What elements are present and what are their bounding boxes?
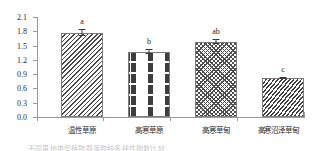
x-axis-line (37, 117, 305, 118)
y-axis-title: Pielou均匀度指数 (1, 0, 15, 14)
y-tick-6: 1.8 (33, 31, 37, 32)
y-tick-7: 2.1 (33, 17, 37, 18)
x-axis-label-gaohan-caoyuan: 高寒草原 (135, 124, 162, 135)
y-tick-label-2: 0.6 (17, 84, 27, 93)
error-bar-cap-top-1 (146, 49, 153, 50)
significance-label-2: ab (212, 27, 220, 36)
error-bar-0 (61, 29, 103, 36)
significance-label-0: a (80, 17, 84, 26)
bar-chart-figure: Pielou均匀度指数 0.0 0.3 0.6 0.9 1.2 1.5 1.8 … (0, 0, 313, 151)
x-axis-label-gaohan-caodian: 高寒草甸 (202, 124, 229, 135)
y-tick-4: 1.2 (33, 60, 37, 61)
y-tick-label-1: 0.3 (17, 98, 27, 107)
plot-area: 0.0 0.3 0.6 0.9 1.2 1.5 1.8 2.1 (37, 17, 305, 117)
error-bar-cap-bottom-1 (146, 53, 153, 54)
bar-gaohan-caoyuan[interactable] (128, 52, 170, 117)
x-tick-0 (37, 117, 38, 121)
error-bar-3 (262, 77, 304, 80)
x-tick-1 (103, 117, 104, 121)
error-bar-cap-top-2 (213, 39, 220, 40)
y-tick-3: 0.9 (33, 74, 37, 75)
x-axis-end-tick (304, 112, 305, 117)
y-axis-line (37, 17, 38, 117)
y-tick-label-5: 1.5 (17, 41, 27, 50)
bar-gaohan-zhaoze-caodian[interactable] (262, 78, 304, 117)
bar-wenxing-caoyuan[interactable] (61, 33, 103, 117)
error-bar-cap-bottom-3 (280, 78, 287, 79)
figure-caption: 不同草地类型植物群落物种多样性指数比较 (28, 143, 308, 151)
y-tick-1: 0.3 (33, 103, 37, 104)
x-axis-label-gaohan-zhaoze-caodian: 高寒沼泽草甸 (258, 124, 299, 135)
error-bar-1 (128, 49, 170, 54)
x-tick-2 (170, 117, 171, 121)
y-tick-label-3: 0.9 (17, 70, 27, 79)
bar-gaohan-caodian[interactable] (195, 42, 237, 117)
y-tick-5: 1.5 (33, 46, 37, 47)
y-tick-label-7: 2.1 (17, 13, 27, 22)
error-bar-cap-top-0 (79, 29, 86, 30)
error-bar-cap-bottom-0 (79, 35, 86, 36)
x-axis-label-wenxing-caoyuan: 温性草原 (68, 124, 95, 135)
significance-label-3: c (281, 65, 285, 74)
y-tick-label-0: 0.0 (17, 113, 27, 122)
significance-label-1: b (147, 37, 151, 46)
error-bar-cap-top-3 (280, 77, 287, 78)
y-tick-label-4: 1.2 (17, 55, 27, 64)
y-tick-label-6: 1.8 (17, 27, 27, 36)
y-tick-2: 0.6 (33, 88, 37, 89)
error-bar-cap-bottom-2 (213, 43, 220, 44)
error-bar-2 (195, 39, 237, 44)
x-tick-3 (237, 117, 238, 121)
